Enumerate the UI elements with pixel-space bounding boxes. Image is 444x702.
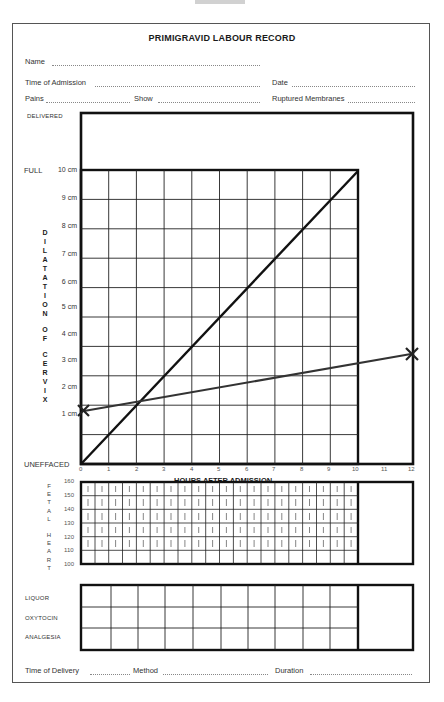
observations-box	[81, 585, 413, 650]
fetal-heart-grid	[81, 482, 358, 564]
chart-graphics	[0, 0, 444, 702]
observations-grid	[81, 585, 358, 650]
